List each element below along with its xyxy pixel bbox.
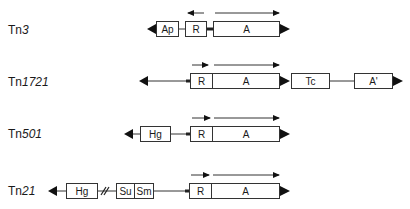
- gene-label-a: A: [243, 24, 250, 35]
- row-tn21: Tn21 Hg Su Sm R A: [8, 175, 290, 199]
- gene-label-tc: Tc: [306, 76, 316, 87]
- transposon-diagram: Tn3 Ap R A Tn1721 R A Tc A' T: [0, 0, 410, 209]
- gene-label-ap: Ap: [161, 24, 174, 35]
- right-inverted-repeat-icon: [393, 76, 403, 86]
- gene-label-r: R: [198, 76, 205, 87]
- left-inverted-repeat-icon: [48, 186, 57, 196]
- right-inverted-repeat-icon: [280, 186, 290, 196]
- left-inverted-repeat-icon: [124, 129, 133, 139]
- gene-label-hg: Hg: [76, 186, 89, 197]
- row-tn501: Tn501 Hg R A: [8, 118, 290, 142]
- gene-label-r: R: [198, 129, 205, 140]
- gene-label-a: A: [242, 186, 249, 197]
- row-label-tn1721: Tn1721: [8, 75, 49, 89]
- gene-label-a-prime: A': [369, 76, 378, 87]
- gene-label-a: A: [243, 76, 250, 87]
- gene-label-su: Su: [119, 186, 131, 197]
- row-tn1721: Tn1721 R A Tc A': [8, 65, 403, 89]
- left-inverted-repeat-icon: [139, 76, 148, 86]
- right-inverted-repeat-icon: [280, 24, 290, 34]
- left-inverted-repeat-icon: [147, 24, 156, 34]
- row-label-tn3: Tn3: [8, 23, 29, 37]
- row-tn3: Tn3 Ap R A: [8, 13, 290, 37]
- gene-label-a: A: [243, 129, 250, 140]
- right-inverted-repeat-icon: [280, 129, 290, 139]
- inner-inverted-repeat-icon: [280, 76, 290, 86]
- gene-label-sm: Sm: [137, 186, 152, 197]
- gene-label-r: R: [197, 186, 204, 197]
- row-label-tn21: Tn21: [8, 184, 35, 198]
- gene-label-r: R: [192, 24, 199, 35]
- row-label-tn501: Tn501: [8, 127, 42, 141]
- gene-label-hg: Hg: [149, 129, 162, 140]
